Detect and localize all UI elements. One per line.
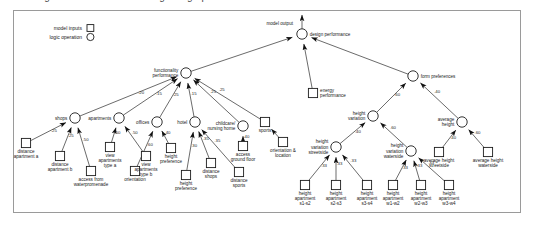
node-dist_shops[interactable] — [206, 158, 215, 167]
node-view_apt_a[interactable] — [105, 142, 114, 151]
edge-weight: .40 — [355, 129, 362, 134]
node-h_apt_w3w4[interactable] — [444, 180, 453, 189]
edge-form_preferences-to-design_performance — [312, 38, 409, 75]
node-h_apt_s1s2[interactable] — [300, 180, 309, 189]
node-h_apt_w2w3[interactable] — [416, 180, 425, 189]
node-access_water[interactable] — [86, 166, 95, 175]
node-label-dist_apt_b: distanceapartment b — [48, 162, 73, 172]
node-label-orientation: orientation — [124, 177, 146, 182]
edge-sports-to-functionality — [195, 78, 261, 119]
node-height_pref_2[interactable] — [181, 170, 190, 179]
node-access_ground[interactable] — [238, 141, 247, 150]
node-label-access_water: access fromwaterpromenade — [74, 177, 109, 187]
node-label-dist_apt_a: distanceapartment a — [14, 149, 39, 159]
node-label-h_apt_s3s4: heightapartments3-s4 — [357, 191, 378, 206]
node-energy[interactable] — [308, 88, 317, 97]
annotations-layer: model output — [266, 15, 302, 29]
edge-weight: .15 — [156, 91, 163, 96]
edge-weight: .60 — [474, 130, 481, 135]
legend-layer: model inputslogic operation — [49, 25, 94, 41]
node-avg_height[interactable] — [457, 117, 467, 127]
edge-weight: .20 — [138, 90, 145, 95]
edge-weight: .50 — [83, 137, 90, 142]
edge-dist_apt_a-to-shops — [30, 123, 66, 141]
diagram-svg: .20.15.25.15.25.25.25.25.50.50.50.60.40.… — [0, 0, 534, 228]
node-offices[interactable] — [152, 117, 162, 127]
node-label-view_apt_a: viewapartmentstype a — [99, 153, 123, 168]
node-label-childcare: childcare/nursing home — [207, 121, 236, 131]
node-label-dist_sports: distancesports — [230, 178, 248, 188]
node-h_apt_s3s4[interactable] — [362, 180, 371, 189]
node-label-design_performance: design performance — [310, 32, 351, 37]
node-label-hv_streetside: heightvariationstreetside — [308, 139, 329, 154]
edge-weight: .50 — [114, 130, 121, 135]
edge-height_pref_2-to-hotel — [187, 132, 194, 170]
legend-label-square: model inputs — [54, 25, 83, 31]
node-label-h_apt_w3w4: heightapartmentw3-w4 — [439, 191, 460, 206]
edge-weight: .33 — [336, 161, 343, 166]
edge-avg_height-to-form_preferences — [420, 83, 458, 118]
node-label-access_ground: accessground floor — [231, 152, 256, 162]
node-label-h_apt_w1w2: heightapartmentw1-w2 — [383, 191, 404, 206]
node-orientation_loc[interactable] — [278, 137, 287, 146]
edge-energy-to-design_performance — [304, 44, 312, 88]
node-label-height_pref_1: heightpreference — [160, 154, 182, 164]
node-hv_waterside[interactable] — [406, 146, 416, 156]
edge-weight: .40 — [434, 89, 441, 94]
edge-apartments-to-functionality — [123, 79, 177, 115]
edge-weight: .35 — [203, 136, 210, 141]
edge-weight: .30 — [191, 143, 198, 148]
node-avg_h_water[interactable] — [483, 147, 492, 156]
node-h_apt_w1w2[interactable] — [388, 180, 397, 189]
node-view_apt_b[interactable] — [141, 151, 150, 160]
node-label-offices: offices — [136, 120, 150, 125]
edge-h_apt_s1s2-to-hv_streetside — [308, 155, 330, 182]
edge-weight: .50 — [132, 130, 139, 135]
node-dist_apt_b[interactable] — [55, 151, 64, 160]
node-h_apt_s2s3[interactable] — [331, 180, 340, 189]
node-height_variation[interactable] — [368, 111, 378, 121]
node-label-avg_height: averageheight — [438, 117, 455, 127]
edge-weight: .60 — [394, 92, 401, 97]
node-design_performance[interactable] — [297, 29, 307, 39]
legend-label-circle: logic operation — [49, 34, 82, 40]
edge-weight: .15 — [191, 91, 198, 96]
node-dist_apt_a[interactable] — [21, 138, 30, 147]
node-label-hv_waterside: heightvariationwaterside — [384, 143, 404, 158]
node-label-avg_h_water: average heightwaterside — [473, 158, 504, 168]
edge-weight: .33 — [416, 163, 423, 168]
edge-weight: .25 — [219, 87, 226, 92]
labels-layer: design performancefunctionalityperforman… — [14, 32, 504, 207]
edge-weight: .40 — [164, 130, 171, 135]
node-hotel[interactable] — [190, 117, 200, 127]
node-label-form_preferences: form preferences — [421, 74, 456, 79]
edge-functionality-to-design_performance — [191, 37, 292, 71]
node-dist_sports[interactable] — [234, 167, 243, 176]
node-childcare[interactable] — [238, 121, 248, 131]
node-hv_streetside[interactable] — [331, 142, 341, 152]
edge-weight: .40 — [450, 135, 457, 140]
node-form_preferences[interactable] — [408, 71, 418, 81]
node-label-h_apt_w2w3: heightapartmentw2-w3 — [411, 191, 432, 206]
model-output-label: model output — [266, 21, 293, 26]
edge-weight: .40 — [243, 134, 250, 139]
edge-weight: .25 — [68, 133, 75, 138]
node-label-apartments: apartments — [88, 116, 112, 121]
edge-weight: .25 — [210, 89, 217, 94]
node-height_pref_1[interactable] — [166, 143, 175, 152]
edge-h_apt_w1w2-to-hv_waterside — [395, 160, 406, 181]
edge-hv_streetside-to-height_variation — [340, 123, 365, 144]
node-label-shops: shops — [55, 116, 68, 121]
node-shops[interactable] — [70, 113, 80, 123]
node-sports[interactable] — [260, 117, 269, 126]
node-functionality[interactable] — [181, 68, 191, 78]
edge-weight: .33 — [402, 165, 409, 170]
edge-offices-to-functionality — [160, 82, 181, 118]
node-apartments[interactable] — [114, 113, 124, 123]
edge-weight: .60 — [147, 142, 154, 147]
edge-dist_apt_b-to-shops — [62, 127, 72, 151]
node-label-sports: sports — [259, 128, 272, 133]
node-avg_h_street[interactable] — [434, 147, 443, 156]
node-label-avg_h_street: average heightstreetside — [424, 158, 455, 168]
edge-weight: .35 — [214, 138, 221, 143]
